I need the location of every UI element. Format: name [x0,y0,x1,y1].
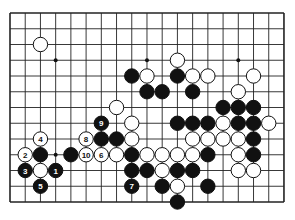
black-stone[interactable]: 5 [33,179,47,193]
stone-disc [185,85,199,99]
black-stone[interactable] [109,132,123,146]
black-stone[interactable] [140,163,154,177]
black-stone[interactable]: 9 [94,116,108,130]
white-stone[interactable] [109,100,123,114]
stone-disc [201,116,215,130]
stone-disc [246,69,260,83]
white-stone[interactable] [155,163,169,177]
move-number: 9 [99,119,104,128]
black-stone[interactable] [185,85,199,99]
white-stone[interactable] [231,148,245,162]
black-stone[interactable] [170,69,184,83]
black-stone[interactable] [246,100,260,114]
white-stone[interactable] [109,148,123,162]
black-stone[interactable] [125,69,139,83]
white-stone[interactable] [140,69,154,83]
stone-disc [33,163,47,177]
stone-disc [201,179,215,193]
white-stone[interactable] [185,69,199,83]
black-stone[interactable] [155,85,169,99]
black-stone[interactable] [246,148,260,162]
stone-disc [246,132,260,146]
black-stone[interactable] [94,132,108,146]
stone-disc [125,116,139,130]
white-stone[interactable] [155,148,169,162]
black-stone[interactable] [33,148,47,162]
stone-disc [231,163,245,177]
stone-disc [170,179,184,193]
white-stone[interactable]: 10 [79,148,93,162]
white-stone[interactable] [170,148,184,162]
white-stone[interactable] [185,132,199,146]
black-stone[interactable] [185,116,199,130]
stone-disc [262,116,276,130]
move-number: 8 [84,135,89,144]
stone-disc [216,100,230,114]
black-stone[interactable] [246,116,260,130]
black-stone[interactable] [155,179,169,193]
stone-disc [155,179,169,193]
move-number: 7 [130,182,135,191]
black-stone[interactable] [170,163,184,177]
black-stone[interactable]: 1 [48,163,62,177]
go-board[interactable]: 94821063157 [0,0,295,220]
black-stone[interactable] [231,100,245,114]
black-stone[interactable] [64,148,78,162]
stone-disc [125,69,139,83]
stone-disc [140,85,154,99]
white-stone[interactable] [246,163,260,177]
black-stone[interactable] [216,100,230,114]
black-stone[interactable] [125,148,139,162]
move-number: 10 [82,151,91,160]
black-stone[interactable] [170,195,184,209]
stone-disc [201,148,215,162]
white-stone[interactable] [262,116,276,130]
stone-disc [140,163,154,177]
move-number: 6 [99,151,104,160]
stone-disc [246,116,260,130]
stone-disc [185,148,199,162]
white-stone[interactable] [231,85,245,99]
black-stone[interactable] [231,116,245,130]
stone-disc [185,116,199,130]
black-stone[interactable] [201,148,215,162]
stone-disc [216,116,230,130]
stone-disc [231,100,245,114]
white-stone[interactable] [216,132,230,146]
black-stone[interactable] [125,163,139,177]
stone-disc [170,163,184,177]
white-stone[interactable]: 6 [94,148,108,162]
white-stone[interactable] [185,148,199,162]
black-stone[interactable] [170,116,184,130]
white-stone[interactable] [33,163,47,177]
white-stone[interactable] [140,148,154,162]
white-stone[interactable] [201,132,215,146]
stone-disc [125,148,139,162]
white-stone[interactable] [170,53,184,67]
white-stone[interactable]: 4 [33,132,47,146]
black-stone[interactable]: 7 [125,179,139,193]
white-stone[interactable] [231,163,245,177]
white-stone[interactable]: 8 [79,132,93,146]
white-stone[interactable] [216,116,230,130]
black-stone[interactable] [246,132,260,146]
white-stone[interactable] [125,132,139,146]
stone-disc [33,37,47,51]
black-stone[interactable]: 3 [18,163,32,177]
white-stone[interactable] [201,69,215,83]
white-stone[interactable] [231,132,245,146]
white-stone[interactable]: 2 [18,148,32,162]
white-stone[interactable] [125,116,139,130]
black-stone[interactable] [185,163,199,177]
white-stone[interactable] [33,37,47,51]
black-stone[interactable] [201,179,215,193]
stone-disc [64,148,78,162]
stone-disc [246,100,260,114]
black-stone[interactable] [140,85,154,99]
star-point [54,153,58,157]
white-stone[interactable] [246,69,260,83]
black-stone[interactable] [201,116,215,130]
white-stone[interactable] [170,179,184,193]
stone-disc [125,163,139,177]
stone-disc [109,100,123,114]
